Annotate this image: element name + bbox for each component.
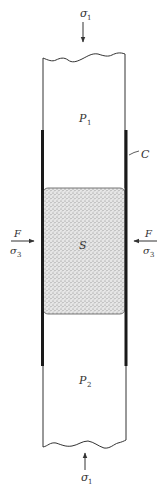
left-sigma-subscript: 3: [17, 251, 21, 259]
p2-subscript: 2: [87, 381, 91, 389]
sleeve-left: [41, 130, 44, 366]
upper-piston: P 1: [43, 53, 125, 188]
upper-piston-label: P 1: [78, 112, 91, 127]
p1-symbol: P: [78, 112, 87, 125]
p2-symbol: P: [78, 374, 87, 387]
right-force-label: F: [144, 228, 153, 239]
p1-subscript: 1: [87, 119, 91, 127]
top-sigma-subscript: 1: [87, 14, 91, 22]
right-confining-load: F σ 3: [134, 228, 157, 259]
triaxial-test-diagram: σ 1 P 1 S P 2 C F σ 3: [0, 0, 165, 488]
lower-piston-label: P 2: [78, 374, 91, 389]
sleeve-right: [125, 130, 128, 366]
lower-piston-wavy-edge: [43, 440, 126, 448]
bottom-sigma-subscript: 1: [88, 478, 92, 486]
left-force-label: F: [13, 228, 22, 239]
specimen: S: [43, 188, 125, 314]
sleeve-label: C: [141, 148, 150, 161]
top-load-label: σ 1: [80, 7, 91, 22]
lower-piston: P 2: [43, 314, 126, 448]
right-sigma-subscript: 3: [150, 251, 154, 259]
left-confining-load: F σ 3: [10, 228, 34, 259]
specimen-label: S: [79, 239, 87, 252]
bottom-load-label: σ 1: [81, 471, 92, 486]
sleeve-pointer: [129, 151, 139, 155]
upper-piston-wavy-edge: [43, 53, 125, 62]
